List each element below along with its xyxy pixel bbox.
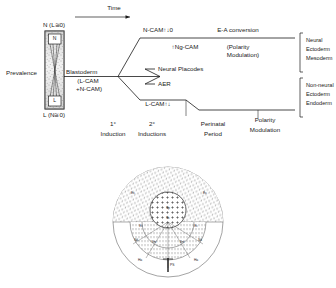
fate-map-diagram	[0, 0, 336, 288]
fate-label-np: Np	[166, 207, 170, 210]
fate-label-ps: PS	[170, 264, 174, 268]
fate-label-inner-5: Sm	[180, 241, 184, 244]
fate-label-inner-2: Ec	[194, 225, 197, 228]
fate-label-ha-left: Ha	[138, 259, 142, 263]
fate-label-ec-left: Ec	[131, 192, 135, 196]
figure-container: Time Prevalence N (L≅0) L (N≅0)	[0, 0, 336, 288]
fate-label-inner-3: Nd	[134, 239, 138, 242]
fate-label-inner-1: Ec	[139, 225, 142, 228]
fate-label-ha-right: Ha	[194, 259, 198, 263]
fate-label-inner-6: Nd	[198, 239, 202, 242]
fate-label-inner-4: Sm	[152, 241, 156, 244]
fate-label-ec-right: Ec	[203, 192, 207, 196]
fate-label-nc: Nc	[166, 217, 170, 220]
